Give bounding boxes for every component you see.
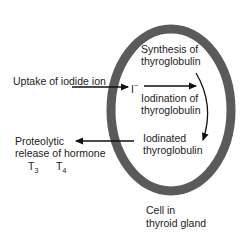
iodinated-line2: thyroglobulin	[143, 144, 203, 156]
diagram-canvas	[0, 0, 246, 240]
synthesis-line1: Synthesis of	[141, 43, 201, 55]
cell-label-line2: thyroid gland	[146, 217, 206, 230]
iodide-charge: −	[134, 82, 138, 89]
cell-label: Cell in thyroid gland	[146, 204, 206, 230]
iodination-label: Iodination of thyroglobulin	[141, 92, 201, 116]
uptake-label: Uptake of iodide ion	[13, 75, 106, 87]
t4-label: T4	[56, 160, 66, 172]
release-line2: release of hormone	[15, 147, 105, 159]
iodinated-line1: Iodinated	[143, 132, 203, 144]
iodinated-label: Iodinated thyroglobulin	[143, 132, 203, 156]
iodide-ion-label: I−	[131, 80, 138, 95]
release-line1: Proteolytic	[15, 135, 105, 147]
iodination-line1: Iodination of	[141, 92, 201, 104]
synthesis-line2: thyroglobulin	[141, 55, 201, 67]
synthesis-label: Synthesis of thyroglobulin	[141, 43, 201, 67]
release-label: Proteolytic release of hormone	[15, 135, 105, 159]
cell-label-line1: Cell in	[146, 204, 206, 217]
t3-label: T3	[28, 160, 38, 172]
hormone-labels: T3 T4	[28, 160, 66, 177]
iodination-line2: thyroglobulin	[141, 104, 201, 116]
